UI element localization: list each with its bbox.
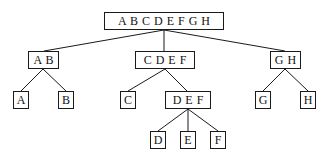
node-a: A (13, 91, 29, 109)
edge-ab-b (43, 69, 66, 91)
node-b: B (58, 91, 74, 109)
edge-gh-g (263, 69, 285, 91)
node-gh: G H (270, 51, 301, 69)
node-g: G (255, 91, 271, 109)
edge-gh-h (285, 69, 308, 91)
node-cdef: C D E F (135, 51, 195, 69)
edge-root-ab (44, 30, 164, 51)
edge-def-f (188, 109, 218, 131)
node-e: E (180, 131, 196, 149)
node-c: C (120, 91, 136, 109)
node-d: D (150, 131, 166, 149)
node-ab: A B (28, 51, 59, 69)
edge-def-d (158, 109, 188, 131)
node-f: F (210, 131, 226, 149)
edge-root-gh (164, 30, 285, 51)
edge-cdef-c (128, 69, 165, 91)
node-def: D E F (165, 91, 211, 109)
edge-cdef-def (165, 69, 187, 91)
node-h: H (300, 91, 316, 109)
edge-ab-a (21, 69, 43, 91)
node-root: A B C D E F G H (104, 12, 224, 30)
